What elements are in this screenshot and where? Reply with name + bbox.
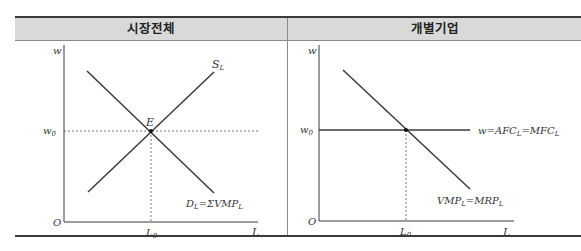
demand-label: VMPL=MRPL — [437, 195, 504, 208]
y-axis-label: w — [53, 45, 62, 56]
y-axis-label: w — [308, 45, 317, 56]
equilibrium-point — [149, 129, 153, 133]
equilibrium-label: E — [145, 116, 154, 129]
market-diagram: w L O E w0 L0 SL DL=ΣVMPL — [43, 45, 260, 240]
diagrams: w L O E w0 L0 SL DL=ΣVMPL w L O w0 L0 w=… — [0, 0, 581, 251]
wage-label: w0 — [300, 124, 314, 137]
wage-label: w0 — [43, 125, 57, 138]
demand-label: DL=ΣVMPL — [185, 198, 243, 211]
x-axis-label: L — [502, 226, 510, 239]
firm-diagram: w L O w0 L0 w=AFCL=MFCL VMPL=MRPL — [300, 45, 560, 239]
supply-label: SL — [212, 58, 225, 72]
quantity-label: L0 — [399, 226, 412, 239]
origin-label: O — [308, 216, 316, 227]
quantity-label: L0 — [145, 227, 158, 240]
equilibrium-point — [404, 128, 408, 132]
origin-label: O — [53, 217, 61, 228]
x-axis-label: L — [251, 226, 259, 239]
supply-label: w=AFCL=MFCL — [478, 125, 560, 138]
